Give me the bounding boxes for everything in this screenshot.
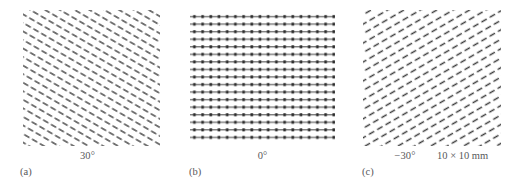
- panel-tag-c: (c): [362, 166, 374, 178]
- texture-patch-b: [190, 13, 335, 141]
- scale-label: 10 × 10 mm: [437, 150, 488, 162]
- angle-label-b: 0°: [175, 150, 350, 162]
- texture-patch-c: [363, 10, 501, 146]
- panel-a: 30° (a): [0, 0, 175, 186]
- figure-panels: 30° (a) 0° (b): [0, 0, 524, 186]
- panel-tag-b: (b): [189, 166, 201, 178]
- texture-patch-a: [23, 10, 160, 146]
- panel-c: −30° 10 × 10 mm (c): [349, 0, 524, 186]
- angle-label-a: 30°: [0, 150, 175, 162]
- panel-b: 0° (b): [175, 0, 350, 186]
- panel-tag-a: (a): [20, 166, 32, 178]
